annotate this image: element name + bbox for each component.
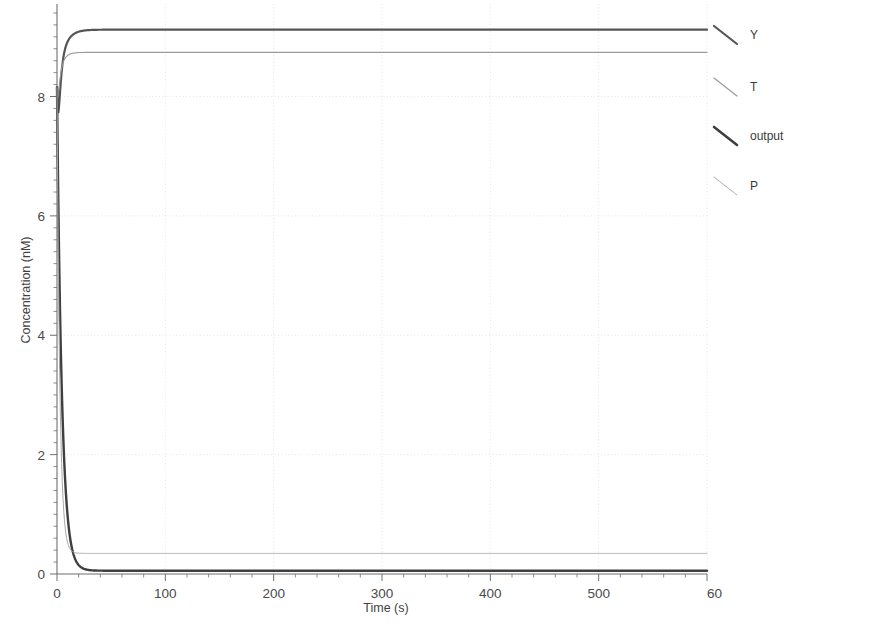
legend-label-Y: Y <box>750 28 758 42</box>
x-tick-label: 500 <box>587 586 610 601</box>
legend-swatch-Y <box>714 26 737 44</box>
y-tick-label: 0 <box>37 567 45 582</box>
figure-canvas: 010020030040050060 02468 Time (s) Concen… <box>0 0 892 640</box>
series-line-output <box>57 88 707 571</box>
x-tick-labels: 010020030040050060 <box>53 586 722 601</box>
legend-swatch-output <box>714 127 737 145</box>
x-tick-label: 300 <box>371 586 394 601</box>
y-tick-labels: 02468 <box>37 90 45 582</box>
y-axis-title: Concentration (nM) <box>19 237 33 344</box>
legend-swatch-P <box>714 177 737 195</box>
y-tick-label: 2 <box>37 448 45 463</box>
legend: YToutputP <box>714 26 784 195</box>
legend-label-T: T <box>750 80 758 94</box>
x-tick-label: 0 <box>53 586 61 601</box>
x-tick-label: 400 <box>479 586 502 601</box>
legend-swatch-T <box>714 78 737 96</box>
minor-ticks <box>54 13 686 578</box>
legend-label-P: P <box>750 179 758 193</box>
x-tick-label: 200 <box>262 586 285 601</box>
x-tick-label: 100 <box>154 586 177 601</box>
y-tick-label: 8 <box>37 90 45 105</box>
major-ticks <box>50 97 707 581</box>
x-tick-label: 60 <box>707 586 722 601</box>
line-chart: 010020030040050060 02468 Time (s) Concen… <box>0 0 892 640</box>
x-axis-title: Time (s) <box>363 601 408 615</box>
grid-lines <box>57 4 707 574</box>
y-tick-label: 4 <box>37 328 45 343</box>
y-tick-label: 6 <box>37 209 45 224</box>
legend-label-output: output <box>750 129 784 143</box>
